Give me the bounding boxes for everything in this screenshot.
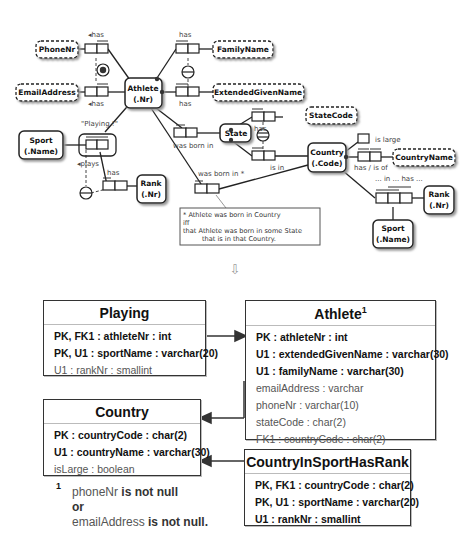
- column-row: PK, U1 : sportName : varchar(20): [54, 345, 205, 362]
- column-row: emailAddress : varchar: [256, 380, 435, 397]
- footnote-text: is not null: [118, 485, 178, 499]
- column-row: U1 : countryName : varchar(30): [54, 444, 200, 461]
- footnote-text: is not null.: [145, 515, 208, 529]
- footnote-text: or: [72, 500, 84, 514]
- table-country-in-sport-has-rank[interactable]: CountryInSportHasRank PK, FK1 : countryC…: [244, 449, 411, 526]
- table-country[interactable]: Country PK : countryCode : char(2) U1 : …: [43, 399, 201, 476]
- table-title: CountryInSportHasRank: [245, 450, 410, 474]
- column-row: PK, FK1 : athleteNr : int: [54, 328, 205, 345]
- table-title: Playing: [44, 301, 205, 325]
- column-row: U1 : familyName : varchar(30): [256, 363, 435, 380]
- footnote-text: emailAddress: [72, 515, 145, 529]
- column-row: stateCode : char(2): [256, 414, 435, 431]
- column-row: PK : athleteNr : int: [256, 329, 435, 346]
- footnote: 1 phoneNr is not null or emailAddress is…: [72, 485, 208, 530]
- column-row: isLarge : boolean: [54, 461, 200, 478]
- table-title: Athlete1: [246, 301, 435, 326]
- table-title: Country: [44, 400, 200, 424]
- table-athlete[interactable]: Athlete1 PK : athleteNr : int U1 : exten…: [245, 300, 436, 440]
- column-row: FK1 : countryCode : char(2): [256, 431, 435, 448]
- table-playing[interactable]: Playing PK, FK1 : athleteNr : int PK, U1…: [43, 300, 206, 376]
- column-row: PK, U1 : sportName : varchar(20): [255, 494, 410, 511]
- column-row: phoneNr : varchar(10): [256, 397, 435, 414]
- footnote-text: phoneNr: [72, 485, 118, 499]
- column-row: PK : countryCode : char(2): [54, 427, 200, 444]
- column-row: PK, FK1 : countryCode : char(2): [255, 477, 410, 494]
- footnote-marker: 1: [362, 305, 367, 315]
- footnote-marker: 1: [56, 479, 61, 494]
- column-row: U1 : rankNr : smallint: [54, 362, 205, 379]
- column-row: U1 : extendedGivenName : varchar(30): [256, 346, 435, 363]
- column-row: U1 : rankNr : smallint: [255, 511, 410, 528]
- table-title-text: Athlete: [314, 306, 361, 322]
